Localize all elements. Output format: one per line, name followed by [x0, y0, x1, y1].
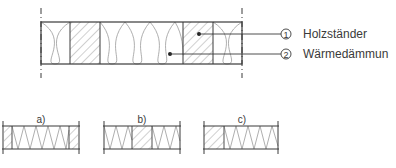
variant-label: a) — [37, 114, 46, 125]
stud-hatch — [183, 22, 213, 64]
main-wall-section — [41, 8, 242, 78]
callout-number: 2 — [283, 50, 288, 60]
stud-hatch — [70, 22, 100, 64]
variant-b: b) — [103, 114, 181, 154]
variant-a: a) — [2, 114, 80, 154]
legend-label: Holzständer — [303, 27, 367, 41]
variant-label: c) — [238, 114, 246, 125]
legend-item-1: 1 Holzständer — [197, 27, 367, 41]
wall-section-diagram: 1 Holzständer 2 Wärmedämmun a) b) c — [0, 0, 396, 168]
callout-number: 1 — [283, 30, 288, 40]
variant-label: b) — [138, 114, 147, 125]
variant-c: c) — [203, 114, 279, 154]
legend-label: Wärmedämmun — [303, 47, 388, 61]
insulation-pattern — [12, 126, 69, 149]
